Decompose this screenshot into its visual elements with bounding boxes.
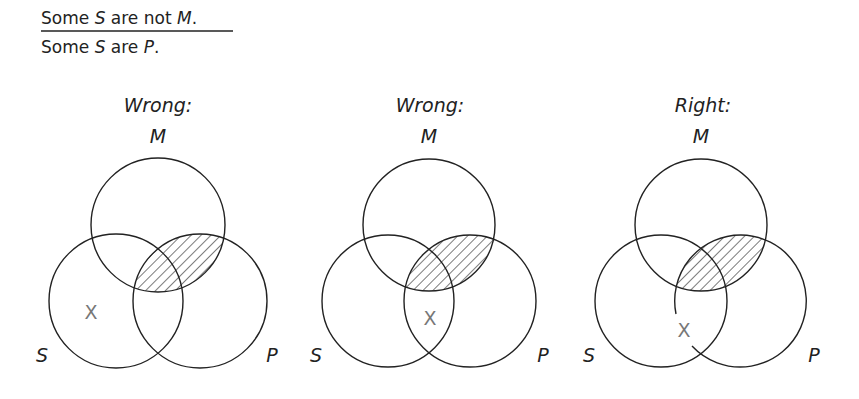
svg-text:Some S are not M.: Some S are not M. — [41, 8, 197, 28]
venn-diagram-3: Right: M S P X — [583, 94, 820, 367]
circle-s — [322, 235, 454, 367]
svg-text:Some S are P.: Some S are P. — [41, 37, 159, 57]
venn-diagram-1: Wrong: M S P X — [36, 94, 278, 368]
venn-diagram-2: Wrong: M S P X — [310, 94, 549, 367]
label-m: M — [150, 125, 166, 147]
diagram-title: Right: — [675, 94, 731, 116]
conclusion: Some S are P. — [41, 37, 159, 57]
label-s: S — [310, 344, 322, 366]
circle-s — [595, 235, 727, 367]
diagram-title: Wrong: — [396, 94, 464, 116]
label-p: P — [808, 344, 820, 366]
diagram-title: Wrong: — [124, 94, 192, 116]
syllogism-figure: Some S are not M. Some S are P. Wrong: M… — [0, 0, 859, 399]
circle-s — [49, 234, 183, 368]
label-p: P — [266, 344, 278, 366]
label-p: P — [537, 344, 549, 366]
label-m: M — [693, 125, 709, 147]
label-s: S — [583, 344, 595, 366]
x-mark: X — [84, 301, 97, 323]
label-m: M — [421, 125, 437, 147]
x-mark: X — [423, 307, 436, 329]
label-s: S — [36, 344, 48, 366]
premise: Some S are not M. — [41, 8, 197, 28]
x-mark: X — [677, 319, 690, 341]
